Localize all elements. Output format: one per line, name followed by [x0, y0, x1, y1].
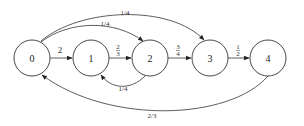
edge-label-4-0: 2/3 — [148, 112, 157, 120]
edge-0-2 — [41, 25, 143, 42]
node-1: 1 — [73, 40, 109, 76]
svg-text:2: 2 — [236, 50, 240, 58]
svg-text:1: 1 — [89, 53, 94, 64]
edge-label-2-3: 3 4 — [176, 43, 180, 58]
edge-label-0-1: 2 — [58, 45, 63, 55]
edge-label-1-2: 2 3 — [116, 43, 120, 58]
svg-text:3: 3 — [208, 53, 213, 64]
edge-4-0 — [42, 75, 268, 111]
state-diagram: 2 2 3 3 4 1 2 1/4 1/4 1/4 2/3 0 1 2 3 4 — [0, 0, 304, 126]
edge-label-3-4: 1 2 — [236, 43, 240, 58]
node-2: 2 — [132, 40, 168, 76]
svg-text:3: 3 — [116, 50, 120, 58]
svg-text:4: 4 — [266, 53, 271, 64]
svg-text:0: 0 — [30, 53, 35, 64]
svg-text:4: 4 — [176, 50, 180, 58]
edge-0-3 — [41, 15, 204, 41]
edge-label-2-1: 1/4 — [119, 85, 128, 93]
edge-label-0-3: 1/4 — [121, 9, 130, 17]
svg-text:2: 2 — [148, 53, 153, 64]
node-3: 3 — [192, 40, 228, 76]
edge-label-0-2: 1/4 — [101, 20, 110, 28]
node-4: 4 — [250, 40, 286, 76]
node-0: 0 — [14, 40, 50, 76]
